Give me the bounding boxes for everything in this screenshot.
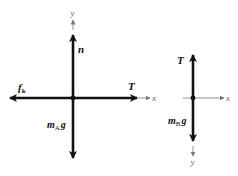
weight-force-label-a: mAg: [47, 119, 66, 132]
tension-force-label-a: T: [128, 80, 136, 92]
body-a-x-axis-label: x: [151, 93, 156, 103]
tension-force-label-b: T: [177, 54, 185, 66]
friction-force-label: fk: [18, 81, 26, 95]
body-a-diagram: y x n fk T mAg: [10, 8, 156, 158]
normal-force-label: n: [78, 43, 84, 55]
body-a-point: [71, 96, 76, 101]
body-b-point: [191, 96, 196, 101]
body-b-x-axis: x: [183, 93, 230, 103]
body-b-y-axis: y: [190, 146, 195, 167]
free-body-diagrams: y x n fk T mAg x y T: [0, 0, 238, 176]
weight-force-label-b: mBg: [168, 115, 186, 128]
body-a-y-axis-label: y: [70, 8, 75, 18]
body-b-y-axis-label: y: [190, 157, 195, 167]
body-a-x-axis: x: [138, 93, 156, 103]
body-b-x-axis-label: x: [225, 93, 230, 103]
body-b-diagram: x y T mBg: [168, 54, 230, 167]
body-a-y-axis: y: [70, 8, 75, 30]
